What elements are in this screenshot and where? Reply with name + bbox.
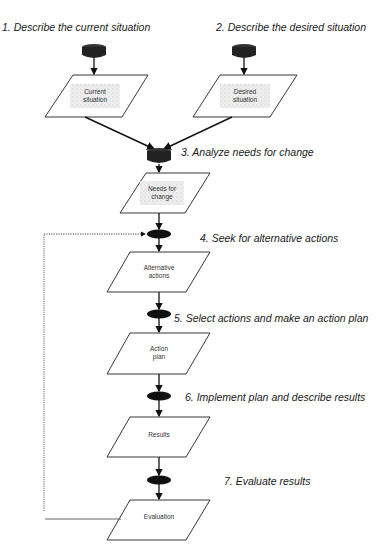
box-line: actions: [129, 272, 189, 280]
results-text: Results: [129, 431, 189, 439]
step-1-label: 1. Describe the current situation: [2, 21, 150, 33]
box-line: Desired: [215, 88, 275, 96]
analysis-icon: [147, 148, 171, 163]
current-situation-text: Current situation: [65, 88, 125, 104]
step-3-label: 3. Analyze needs for change: [181, 146, 314, 158]
data-source-icon: [232, 44, 256, 58]
box-line: Evaluation: [129, 513, 189, 521]
needs-for-change-text: Needs for change: [132, 185, 192, 201]
data-source-icon: [82, 44, 106, 58]
evaluation-text: Evaluation: [129, 513, 189, 521]
step-node-6: [147, 392, 171, 401]
step-node-4: [147, 230, 171, 239]
step-7-label: 7. Evaluate results: [224, 475, 310, 487]
box-line: situation: [65, 96, 125, 104]
alternative-actions-text: Alternative actions: [129, 264, 189, 280]
box-line: Action: [129, 345, 189, 353]
box-line: change: [132, 193, 192, 201]
box-line: situation: [215, 96, 275, 104]
box-line: Current: [65, 88, 125, 96]
step-6-label: 6. Implement plan and describe results: [185, 391, 365, 403]
box-line: Results: [129, 431, 189, 439]
flowchart-canvas: [0, 0, 383, 555]
action-plan-text: Action plan: [129, 345, 189, 361]
step-node-5: [147, 310, 171, 319]
box-line: plan: [129, 353, 189, 361]
step-4-label: 4. Seek for alternative actions: [200, 232, 338, 244]
step-5-label: 5. Select actions and make an action pla…: [174, 312, 368, 324]
step-2-label: 2. Describe the desired situation: [216, 21, 366, 33]
step-node-7: [147, 476, 171, 485]
box-line: Alternative: [129, 264, 189, 272]
desired-situation-text: Desired situation: [215, 88, 275, 104]
box-line: Needs for: [132, 185, 192, 193]
